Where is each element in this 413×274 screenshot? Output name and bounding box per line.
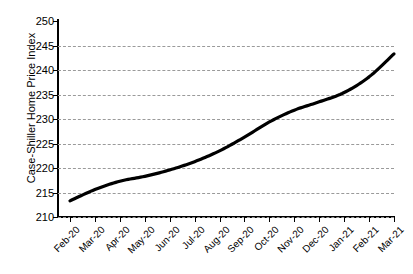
- y-tick-label: 220: [28, 162, 54, 174]
- y-tick-label: 240: [28, 64, 54, 76]
- y-tick-label: 210: [28, 211, 54, 223]
- y-tick-mark: [53, 95, 57, 96]
- x-tick-label: Dec-20: [300, 224, 331, 255]
- gridline: [58, 46, 394, 47]
- x-tick-label: May-20: [125, 224, 156, 255]
- y-axis-title: Case-Shiller Home Price Index: [25, 3, 37, 213]
- x-tick-mark: [120, 217, 121, 222]
- x-tick-label: Jan-21: [327, 224, 356, 253]
- y-tick-label: 225: [28, 138, 54, 150]
- plot-area: [58, 21, 394, 217]
- x-tick-mark: [145, 217, 146, 222]
- x-tick-mark: [369, 217, 370, 222]
- y-tick-mark: [53, 217, 57, 218]
- gridline: [58, 168, 394, 169]
- y-tick-mark: [53, 193, 57, 194]
- y-tick-mark: [53, 144, 57, 145]
- y-tick-mark: [53, 21, 57, 22]
- y-tick-mark: [53, 70, 57, 71]
- x-tick-mark: [294, 217, 295, 222]
- x-tick-mark: [344, 217, 345, 222]
- x-tick-mark: [195, 217, 196, 222]
- x-tick-label: Nov-20: [275, 224, 306, 255]
- x-tick-label: Jun-20: [152, 224, 181, 253]
- y-tick-mark: [53, 168, 57, 169]
- y-tick-mark: [53, 46, 57, 47]
- x-tick-mark: [244, 217, 245, 222]
- gridline: [58, 119, 394, 120]
- x-tick-mark: [319, 217, 320, 222]
- y-tick-mark: [53, 119, 57, 120]
- x-tick-label: Feb-20: [52, 224, 82, 254]
- x-tick-mark: [269, 217, 270, 222]
- x-tick-label: Aug-20: [201, 224, 232, 255]
- x-tick-mark: [170, 217, 171, 222]
- y-tick-label: 250: [28, 15, 54, 27]
- x-tick-label: Mar-21: [376, 224, 406, 254]
- y-tick-label: 215: [28, 187, 54, 199]
- gridline: [58, 193, 394, 194]
- x-tick-mark: [95, 217, 96, 222]
- y-tick-label: 235: [28, 89, 54, 101]
- gridline: [58, 70, 394, 71]
- x-tick-mark: [394, 217, 395, 222]
- y-tick-label: 230: [28, 113, 54, 125]
- x-tick-label: Mar-20: [77, 224, 107, 254]
- x-tick-label: Sep-20: [226, 224, 257, 255]
- gridline: [58, 144, 394, 145]
- x-tick-label: Feb-21: [351, 224, 381, 254]
- x-tick-mark: [70, 217, 71, 222]
- x-tick-mark: [220, 217, 221, 222]
- chart-screenshot: Case-Shiller Home Price Index 2102152202…: [0, 0, 413, 274]
- y-tick-label: 245: [28, 40, 54, 52]
- gridline: [58, 95, 394, 96]
